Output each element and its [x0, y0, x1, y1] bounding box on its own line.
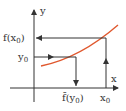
- arrow-right-icon: [48, 54, 54, 60]
- label-y0: y0: [17, 51, 28, 64]
- arrow-left-icon: [36, 35, 42, 41]
- x-axis-label: x: [111, 73, 117, 84]
- function-inverse-diagram: y x f(x0) y0 f̄(y0) x0: [0, 0, 126, 111]
- arrow-up-icon: [103, 58, 109, 64]
- arrow-down-icon: [73, 80, 79, 86]
- y-axis-label: y: [39, 5, 46, 16]
- label-finv-y0: f̄(y0): [62, 92, 84, 105]
- label-x0: x0: [100, 92, 110, 105]
- label-f-x0: f(x0): [3, 32, 25, 45]
